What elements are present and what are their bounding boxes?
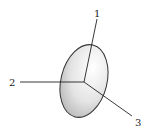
ellipsoid-axes-diagram: 1 2 3 [0, 0, 151, 135]
axis-3-label: 3 [135, 117, 141, 128]
axis-1-label: 1 [94, 8, 100, 19]
axis-2-label: 2 [9, 77, 15, 88]
